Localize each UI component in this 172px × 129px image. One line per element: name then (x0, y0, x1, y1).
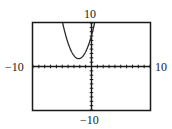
y-min-label: −10 (80, 114, 99, 126)
x-min-label: −10 (5, 61, 24, 73)
x-max-label: 10 (155, 61, 167, 73)
y-max-label: 10 (84, 8, 96, 20)
graph-window: 10 −10 −10 10 (0, 0, 172, 129)
